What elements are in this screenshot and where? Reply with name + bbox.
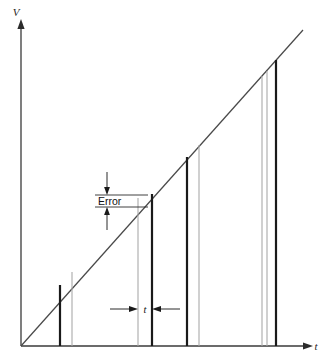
error-label: Error — [98, 195, 122, 207]
period-left-arrowhead — [129, 306, 138, 312]
period-annotation-group: t — [110, 304, 180, 315]
ramp-signal-line — [21, 30, 303, 346]
sample-marker-group — [60, 60, 276, 346]
error-top-arrowhead — [104, 187, 110, 195]
x-axis-arrowhead — [303, 342, 313, 349]
error-annotation-group: Error — [95, 172, 148, 230]
x-axis-label: t — [314, 340, 318, 352]
y-axis-arrowhead — [17, 19, 24, 29]
period-right-arrowhead — [152, 306, 161, 312]
y-axis-label: V — [13, 6, 21, 18]
period-label: t — [144, 304, 148, 315]
ramp-error-diagram: V t Error — [0, 0, 321, 360]
figure-root: V t Error — [0, 0, 321, 360]
error-bottom-arrowhead — [104, 207, 110, 215]
